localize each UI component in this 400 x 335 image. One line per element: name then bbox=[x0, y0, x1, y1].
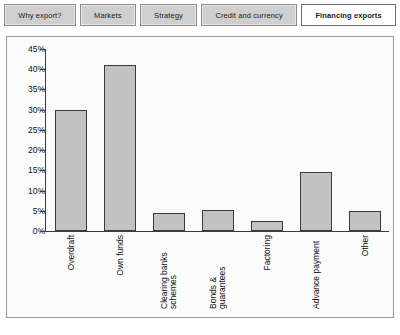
y-axis-tick-mark bbox=[40, 231, 45, 232]
y-axis-tick-mark bbox=[40, 110, 45, 111]
tab-strategy[interactable]: Strategy bbox=[140, 4, 197, 26]
x-axis-tick-label: Advance payment bbox=[291, 233, 340, 317]
bar-slot bbox=[300, 49, 332, 231]
bar[interactable] bbox=[251, 221, 283, 231]
x-axis-tick-label: Factoring bbox=[242, 233, 291, 317]
y-axis-tick-mark bbox=[40, 191, 45, 192]
bar[interactable] bbox=[300, 172, 332, 231]
tab-label: Credit and currency bbox=[215, 11, 282, 20]
x-axis-tick-label: Overdraft bbox=[46, 233, 95, 317]
x-axis-tick-label-text: Advance payment bbox=[311, 235, 320, 309]
bar-slot bbox=[349, 49, 381, 231]
bar-slot bbox=[55, 49, 87, 231]
y-axis: 45%40%35%30%25%20%15%10%5%0% bbox=[9, 37, 45, 317]
y-axis-tick-mark bbox=[40, 150, 45, 151]
x-axis-tick-label-text: Clearing banks schemes bbox=[160, 235, 178, 309]
x-axis-tick-label-text: Other bbox=[360, 235, 369, 256]
x-axis-category-labels: OverdraftOwn fundsClearing banks schemes… bbox=[46, 233, 389, 317]
y-axis-tick-mark bbox=[40, 130, 45, 131]
y-axis-tick-mark bbox=[40, 69, 45, 70]
x-axis-tick-label: Clearing banks schemes bbox=[144, 233, 193, 317]
y-axis-tick-mark bbox=[40, 89, 45, 90]
bar[interactable] bbox=[153, 213, 185, 231]
chart-panel: 45%40%35%30%25%20%15%10%5%0% OverdraftOw… bbox=[6, 36, 394, 318]
tab-bar: Why export? Markets Strategy Credit and … bbox=[0, 0, 400, 30]
bar[interactable] bbox=[104, 65, 136, 231]
tab-credit-and-currency[interactable]: Credit and currency bbox=[201, 4, 297, 26]
bar-slot bbox=[104, 49, 136, 231]
x-axis-tick-label: Other bbox=[340, 233, 389, 317]
bar-slot bbox=[251, 49, 283, 231]
y-axis-tick-mark bbox=[40, 211, 45, 212]
tab-label: Markets bbox=[94, 11, 121, 20]
tab-label: Strategy bbox=[154, 11, 183, 20]
bar[interactable] bbox=[202, 210, 234, 231]
tab-label: Why export? bbox=[18, 11, 61, 20]
bar[interactable] bbox=[55, 110, 87, 231]
tab-label: Financing exports bbox=[315, 11, 381, 20]
bars-layer bbox=[46, 49, 389, 231]
bar[interactable] bbox=[349, 211, 381, 231]
y-axis-tick-mark bbox=[40, 49, 45, 50]
y-axis-tick-mark bbox=[40, 170, 45, 171]
tab-why-export[interactable]: Why export? bbox=[4, 4, 76, 26]
x-axis-tick-label: Own funds bbox=[95, 233, 144, 317]
x-axis-tick-label: Bonds & guarantees bbox=[193, 233, 242, 317]
x-axis-tick-label-text: Bonds & guarantees bbox=[209, 235, 227, 309]
bar-slot bbox=[202, 49, 234, 231]
tab-markets[interactable]: Markets bbox=[80, 4, 136, 26]
x-axis-tick-label-text: Factoring bbox=[262, 235, 271, 270]
x-axis-line bbox=[45, 231, 389, 232]
x-axis-tick-label-text: Own funds bbox=[115, 235, 124, 276]
tab-financing-exports[interactable]: Financing exports bbox=[301, 4, 396, 26]
bar-slot bbox=[153, 49, 185, 231]
x-axis-tick-label-text: Overdraft bbox=[66, 235, 75, 270]
bar-chart: 45%40%35%30%25%20%15%10%5%0% OverdraftOw… bbox=[7, 37, 393, 317]
